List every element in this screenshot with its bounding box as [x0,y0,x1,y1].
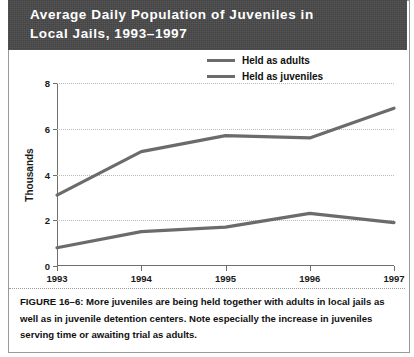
legend-label: Held as adults [242,55,310,66]
y-tick-label: 8 [45,78,50,89]
x-tick-mark [141,266,142,271]
left-gutter [0,0,8,357]
legend-item-held-as-juveniles: Held as juveniles [207,71,323,82]
x-tick-mark [310,266,311,271]
x-tick-label: 1996 [299,273,320,284]
legend-item-held-as-adults: Held as adults [207,55,323,66]
figure-caption: FIGURE 16–6: More juveniles are being he… [20,294,392,344]
series-line-held-as-juveniles [57,213,394,247]
x-tick-label: 1994 [131,273,152,284]
x-tick-mark [226,266,227,271]
x-tick-label: 1993 [46,273,67,284]
x-tick-label: 1995 [215,273,236,284]
y-tick-label: 4 [45,169,50,180]
figure-container: Average Daily Population of Juveniles in… [0,0,414,357]
legend-swatch-icon [207,75,235,78]
y-tick-label: 2 [45,215,50,226]
x-tick-mark [394,266,395,271]
chart-plate: Thousands Held as adults Held as juvenil… [9,50,406,286]
figure-title: Average Daily Population of Juveniles in… [30,5,399,43]
caption-separator [9,288,405,289]
series-lines [57,83,394,266]
y-tick-label: 6 [45,123,50,134]
legend-swatch-icon [207,59,235,62]
plot-area: 02468 19931994199519961997 [57,83,394,266]
title-line-2: Local Jails, 1993–1997 [30,26,187,41]
x-tick-mark [57,266,58,271]
legend-label: Held as juveniles [242,71,323,82]
title-bar: Average Daily Population of Juveniles in… [8,0,407,50]
y-axis-label: Thousands [24,148,35,201]
series-line-held-as-adults [57,108,394,195]
y-tick-label: 0 [45,261,50,272]
y-axis-label-wrap: Thousands [23,83,37,266]
x-tick-label: 1997 [383,273,404,284]
title-line-1: Average Daily Population of Juveniles in [30,7,314,22]
